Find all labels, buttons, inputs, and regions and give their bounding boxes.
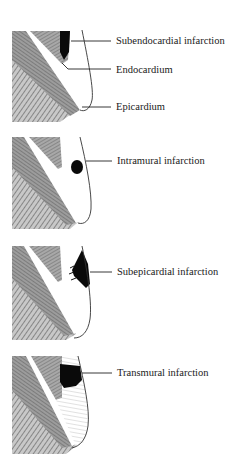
panel-subepicardial: Subepicardial infarction: [0, 244, 247, 344]
label-transmural-infarction: Transmural infarction: [117, 367, 208, 379]
label-intramural-infarction: Intramural infarction: [117, 155, 205, 167]
panel-intramural: Intramural infarction: [0, 137, 247, 232]
heart-wall-illustration: [0, 244, 247, 344]
panel-subendocardial: Subendocardial infarction Endocardium Ep…: [0, 0, 247, 125]
panel-transmural: Transmural infarction: [0, 354, 247, 460]
label-endocardium: Endocardium: [116, 64, 173, 76]
label-subendocardial-infarction: Subendocardial infarction: [116, 35, 225, 47]
label-subepicardial-infarction: Subepicardial infarction: [117, 266, 218, 278]
label-epicardium: Epicardium: [116, 101, 165, 113]
heart-wall-illustration: [0, 137, 247, 232]
